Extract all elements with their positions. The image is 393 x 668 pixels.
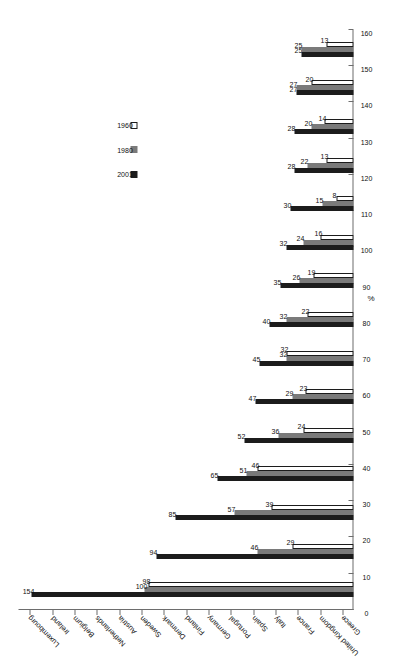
bar-slot: 27 [18, 90, 353, 95]
bar-value-label: 39 [265, 501, 273, 508]
category-label: Spain [249, 614, 269, 634]
bar-value-label: 19 [307, 269, 315, 276]
bar: 19 [313, 273, 353, 278]
bar-group: 352619 [18, 262, 353, 301]
bar-value-label: 8 [332, 192, 336, 199]
axis-tick [348, 609, 353, 610]
axis-tick-label: 100 [360, 248, 372, 255]
bar-group: 655146 [18, 455, 353, 494]
bar-slot: 32 [18, 245, 353, 250]
axis-tick-label: 140 [360, 103, 372, 110]
bar: 13 [326, 42, 353, 47]
bar-group: 272720 [18, 69, 353, 108]
bar-slot: 36 [18, 433, 353, 438]
bar-slot: 94 [18, 554, 353, 559]
bar-slot: 15 [18, 201, 353, 206]
axis-tick-label: 80 [362, 320, 370, 327]
bar: 32 [286, 356, 353, 361]
category-label: Sweden [137, 614, 162, 639]
bar: 23 [305, 389, 353, 394]
bar-groups: 1541009894462985573965514652362447292345… [18, 30, 353, 609]
bar: 51 [246, 471, 353, 476]
axis-tick-label: 130 [360, 139, 372, 146]
chart-canvas: 0102030405060708090100110120130140150160… [0, 0, 393, 668]
axis-tick-label: 40 [362, 465, 370, 472]
bar-slot: 14 [18, 119, 353, 124]
bar: 32 [286, 317, 353, 322]
bar-group: 15410098 [18, 570, 353, 609]
category-label: Finland [182, 614, 206, 638]
bar: 13 [326, 158, 353, 163]
bar-slot: 20 [18, 124, 353, 129]
bar-slot: 23 [18, 389, 353, 394]
category-label: Germany [204, 614, 232, 642]
bar: 24 [303, 428, 353, 433]
bar-value-label: 24 [297, 423, 305, 430]
bar: 8 [336, 196, 353, 201]
bar: 28 [294, 129, 353, 134]
bar-slot: 13 [18, 158, 353, 163]
bar-value-label: 23 [299, 385, 307, 392]
bar-value-label: 13 [320, 153, 328, 160]
chart-legend: 200119801960 [121, 118, 137, 183]
category-label: Greece [338, 614, 362, 638]
legend-item: 1960 [121, 118, 137, 134]
bar-value-label: 13 [320, 37, 328, 44]
bar: 25 [301, 47, 353, 52]
bar: 85 [175, 515, 353, 520]
bar-value-label: 20 [305, 76, 313, 83]
bar-slot: 51 [18, 471, 353, 476]
bar: 40 [269, 322, 353, 327]
axis-tick-label: 60 [362, 393, 370, 400]
category-tick [186, 610, 187, 615]
bar: 27 [296, 85, 353, 90]
bar-slot: 25 [18, 47, 353, 52]
bar: 15 [322, 201, 353, 206]
bar: 154 [31, 592, 353, 597]
bar-group: 282014 [18, 107, 353, 146]
axis-tick-label: 0 [364, 610, 368, 617]
bar: 35 [280, 283, 353, 288]
category-tick [29, 610, 30, 615]
legend-label: 1960 [116, 122, 132, 129]
bar: 25 [301, 52, 353, 57]
bar-slot: 85 [18, 515, 353, 520]
category-axis-line [18, 609, 353, 610]
bar-slot: 22 [18, 312, 353, 317]
category-tick [52, 610, 53, 615]
bar-slot: 26 [18, 278, 353, 283]
bar-slot: 29 [18, 544, 353, 549]
bar-slot: 25 [18, 52, 353, 57]
bar-slot: 46 [18, 549, 353, 554]
bar-group: 403222 [18, 300, 353, 339]
category-tick [141, 610, 142, 615]
legend-item: 2001 [121, 167, 137, 183]
bar-group: 472923 [18, 377, 353, 416]
bar-group: 523624 [18, 416, 353, 455]
bar-slot: 13 [18, 42, 353, 47]
category-label: France [293, 614, 316, 637]
bar-slot: 52 [18, 438, 353, 443]
category-label: United Kingdom [316, 614, 360, 658]
category-label: Ireland [48, 614, 70, 636]
category-tick [275, 610, 276, 615]
category-label: Denmark [159, 614, 187, 642]
bar-group: 944629 [18, 532, 353, 571]
bar-slot: 24 [18, 428, 353, 433]
axis-tick-label: 160 [360, 30, 372, 37]
bar-value-label: 46 [251, 462, 259, 469]
category-tick [119, 610, 120, 615]
bar: 29 [292, 544, 353, 549]
bar-slot: 32 [18, 317, 353, 322]
bar-slot: 65 [18, 476, 353, 481]
axis-tick-label: 30 [362, 501, 370, 508]
category-tick [297, 610, 298, 615]
bar: 36 [278, 433, 353, 438]
bar: 16 [320, 235, 354, 240]
bar: 32 [286, 245, 353, 250]
bar-slot: 40 [18, 322, 353, 327]
bar: 20 [311, 80, 353, 85]
category-tick [163, 610, 164, 615]
bar-slot: 46 [18, 466, 353, 471]
bar: 30 [290, 206, 353, 211]
